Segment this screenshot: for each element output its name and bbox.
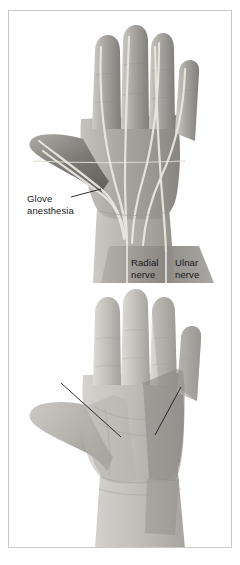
palmar-hand-illustration <box>9 283 231 548</box>
panel-dorsal-hand: Glove anesthesia Radial nerve Ulnar nerv… <box>9 11 231 283</box>
label-radial-nerve: Radial nerve <box>131 257 159 280</box>
dorsal-hand-illustration <box>9 11 231 283</box>
ulnar-area-wrist-extension <box>145 479 179 535</box>
panel-palmar-hand: Area affected by radial nerve Area affec… <box>9 283 231 548</box>
palm-finger-index <box>93 297 121 385</box>
palm-finger-middle <box>121 289 150 385</box>
finger-ring <box>149 33 175 129</box>
finger-index <box>92 35 121 129</box>
label-glove-anesthesia: Glove anesthesia <box>27 193 74 216</box>
figure-frame: Glove anesthesia Radial nerve Ulnar nerv… <box>8 10 232 548</box>
label-ulnar-nerve: Ulnar nerve <box>175 257 199 280</box>
